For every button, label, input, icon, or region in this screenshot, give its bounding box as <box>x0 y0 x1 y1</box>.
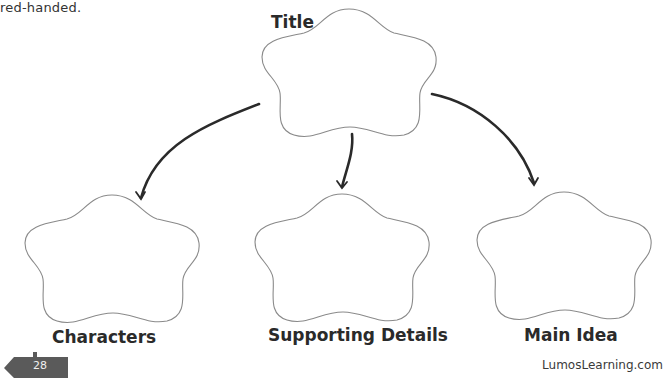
characters-label: Characters <box>52 327 156 347</box>
arrow-to-characters <box>141 104 259 198</box>
title-label: Title <box>271 12 314 32</box>
characters-flower <box>25 195 199 322</box>
supporting-details-flower <box>255 194 429 321</box>
supporting-details-label: Supporting Details <box>268 325 448 345</box>
page-number: 28 <box>20 359 60 372</box>
brand-footer: LumosLearning.com <box>542 358 663 372</box>
main-idea-flower <box>477 192 651 319</box>
main-idea-label: Main Idea <box>524 325 618 345</box>
graphic-organizer <box>0 0 665 378</box>
arrow-to-main-idea <box>432 94 534 183</box>
arrow-to-supporting-details <box>342 134 352 187</box>
